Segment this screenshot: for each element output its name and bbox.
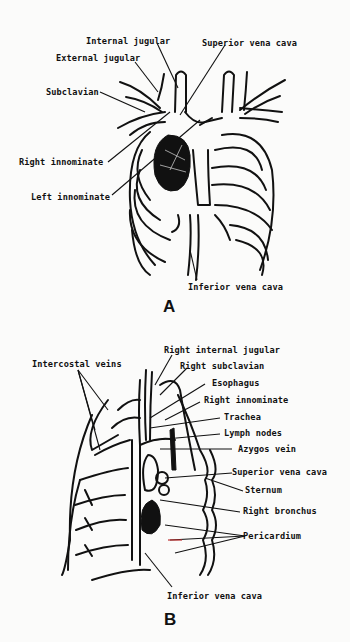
label-lymph-nodes: Lymph nodes: [224, 428, 282, 438]
panel-label-b: B: [164, 610, 176, 630]
figure-b-drawing: [0, 0, 350, 642]
label-intercostal-veins: Intercostal veins: [32, 359, 122, 369]
label-azygos-vein: Azygos vein: [238, 444, 296, 454]
label-right-internal-jugular: Right internal jugular: [164, 345, 280, 355]
label-esophagus: Esophagus: [212, 378, 259, 388]
label-right-subclavian: Right subclavian: [180, 361, 264, 371]
label-sternum: Sternum: [245, 485, 282, 495]
figure-b-leader-lines: [78, 355, 245, 587]
label-trachea: Trachea: [224, 412, 261, 422]
label-pericardium: Pericardium: [243, 531, 301, 541]
label-inferior-vena-cava-b: Inferior vena cava: [167, 591, 262, 601]
label-right-bronchus: Right bronchus: [243, 506, 317, 516]
label-right-innominate-b: Right innominate: [204, 395, 288, 405]
vertebral-column: [62, 400, 150, 580]
label-superior-vena-cava-b: Superior vena cava: [232, 467, 327, 477]
